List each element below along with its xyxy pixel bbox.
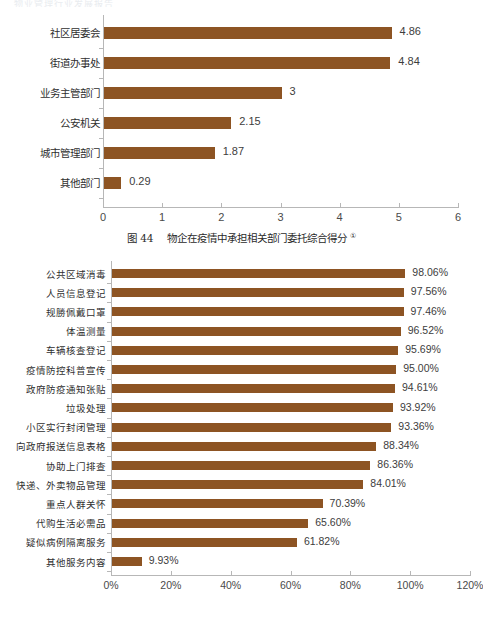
chart-45-value-label: 86.36% (377, 458, 413, 470)
chart-44-value-label: 4.84 (398, 55, 419, 67)
chart-44-bar (104, 87, 282, 99)
chart-44-category-label: 公安机关 (14, 115, 100, 130)
chart-44-value-label: 1.87 (223, 145, 244, 157)
chart-45-y-tick (107, 494, 112, 495)
chart-44-category-label: 社区居委会 (14, 25, 100, 40)
chart-45-x-tick-label: 40% (213, 579, 249, 591)
chart-45-category-label: 政府防疫通知张贴 (2, 382, 106, 396)
chart-45-category-label: 人员信息登记 (2, 286, 106, 300)
chart-45-category-label: 快递、外卖物品管理 (2, 478, 106, 492)
chart-45-x-tick (470, 571, 471, 576)
chart-45-x-tick-label: 20% (153, 579, 189, 591)
chart-45-y-tick (107, 475, 112, 476)
chart-45-category-label: 车辆核查登记 (2, 343, 106, 357)
chart-45-value-label: 95.69% (405, 343, 441, 355)
chart-45-value-label: 97.46% (411, 305, 447, 317)
chart-45-y-tick (107, 418, 112, 419)
chart-44-category-label: 街道办事处 (14, 55, 100, 70)
chart-45-value-label: 93.36% (398, 420, 434, 432)
chart-44-x-tick (399, 203, 400, 208)
chart-45-value-label: 84.01% (370, 477, 406, 489)
figure-44: 社区居委会4.86街道办事处4.84业务主管部门3公安机关2.15城市管理部门1… (0, 0, 483, 250)
chart-45-x-tick (231, 571, 232, 576)
chart-45-bar (112, 461, 370, 470)
chart-45-bar (112, 365, 396, 374)
figure-44-caption-text: 物企在疫情中承担相关部门委托综合得分 (167, 232, 347, 244)
chart-45-value-label: 88.34% (383, 439, 419, 451)
chart-44-x-tick (340, 203, 341, 208)
chart-45-category-label: 垃圾处理 (2, 401, 106, 415)
chart-45-value-label: 95.00% (403, 362, 439, 374)
chart-44-category-label: 业务主管部门 (14, 85, 100, 100)
chart-45-x-tick (350, 571, 351, 576)
chart-45-y-tick (107, 514, 112, 515)
chart-45-value-label: 96.52% (408, 324, 444, 336)
chart-45-bar (112, 557, 142, 566)
chart-45-bar (112, 519, 308, 528)
figure-44-caption-footnote: ① (350, 232, 356, 240)
chart-45-x-tick-label: 0% (93, 579, 129, 591)
chart-44-x-tick (103, 203, 104, 208)
chart-45-y-tick (107, 360, 112, 361)
chart-44-y-tick (99, 168, 104, 169)
chart-45-x-tick-label: 100% (392, 579, 428, 591)
chart-44-x-tick-label: 1 (150, 211, 174, 223)
chart-45-bar (112, 384, 395, 393)
chart-45-category-label: 代购生活必需品 (2, 516, 106, 530)
chart-45-x-tick-label: 120% (452, 579, 483, 591)
chart-45-bar (112, 403, 393, 412)
figure-44-caption: 图 44 物企在疫情中承担相关部门委托综合得分 ① (0, 230, 483, 245)
chart-44-category-label: 城市管理部门 (14, 145, 100, 160)
chart-44-x-tick (281, 203, 282, 208)
chart-44-bar (104, 57, 390, 69)
chart-44-y-tick (99, 138, 104, 139)
chart-45-bar (112, 480, 363, 489)
chart-45-category-label: 协助上门排查 (2, 459, 106, 473)
chart-45-bar (112, 442, 376, 451)
chart-44-bar (104, 117, 231, 129)
chart-44-value-label: 4.86 (400, 25, 421, 37)
chart-45-x-tick (291, 571, 292, 576)
chart-45-y-tick (107, 341, 112, 342)
chart-44-x-tick-label: 3 (269, 211, 293, 223)
chart-44-x-tick (162, 203, 163, 208)
chart-44-x-tick-label: 6 (446, 211, 470, 223)
chart-45-y-tick (107, 533, 112, 534)
chart-45-category-label: 向政府报送信息表格 (2, 439, 106, 453)
chart-45-value-label: 97.56% (411, 285, 447, 297)
chart-45-y-tick (107, 552, 112, 553)
chart-45-bar (112, 538, 297, 547)
chart-45-value-label: 98.06% (412, 266, 448, 278)
chart-45-category-label: 小区实行封闭管理 (2, 420, 106, 434)
chart-45-value-label: 61.82% (304, 535, 340, 547)
chart-45-y-tick (107, 302, 112, 303)
chart-45-category-label: 疫情防控科普宣传 (2, 363, 106, 377)
chart-45-y-tick (107, 398, 112, 399)
chart-45-x-tick-label: 60% (273, 579, 309, 591)
chart-45-x-tick (171, 571, 172, 576)
chart-45-bar (112, 307, 404, 316)
chart-45-value-label: 94.61% (402, 381, 438, 393)
chart-44-x-tick-label: 4 (328, 211, 352, 223)
chart-45-y-tick (107, 379, 112, 380)
chart-45-category-label: 疑似病例隔离服务 (2, 535, 106, 549)
chart-44-x-tick-label: 2 (209, 211, 233, 223)
chart-44-y-tick (99, 48, 104, 49)
chart-44-y-tick (99, 78, 104, 79)
chart-44-bar (104, 147, 215, 159)
figure-44-caption-number: 图 44 (127, 232, 154, 244)
chart-45-bar (112, 499, 323, 508)
chart-44-x-tick (221, 203, 222, 208)
chart-45-category-label: 其他服务内容 (2, 555, 106, 569)
chart-45-bar (112, 288, 404, 297)
chart-45-x-tick (410, 571, 411, 576)
chart-45-value-label: 9.93% (149, 554, 179, 566)
figure-45: 公共区域消毒98.06%人员信息登记97.56%规勝佩戴口罩97.46%体温测量… (0, 255, 483, 620)
chart-44-value-label: 3 (290, 85, 296, 97)
chart-44-bar (104, 177, 121, 189)
chart-44-x-tick (458, 203, 459, 208)
chart-45-bar (112, 327, 401, 336)
chart-44-x-tick-label: 5 (387, 211, 411, 223)
chart-45-value-label: 70.39% (330, 497, 366, 509)
chart-45-y-tick (107, 437, 112, 438)
